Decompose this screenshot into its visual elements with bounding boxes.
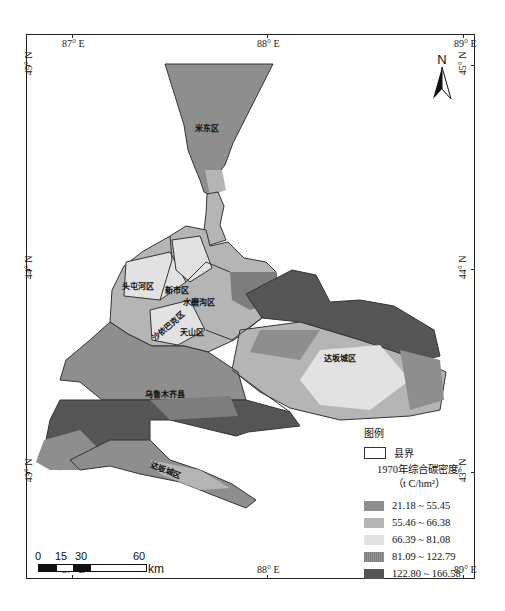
- district-label-tianshan: 天山区: [180, 326, 204, 337]
- north-label: N: [431, 52, 453, 67]
- legend-heading: 1970年综合碳密度/ （t C/hm²）: [364, 463, 474, 491]
- legend-label-1: 21.18 ~ 55.45: [392, 500, 450, 511]
- legend-swatch-4: [364, 552, 384, 562]
- scale-unit: km: [148, 562, 164, 576]
- legend-swatch-2: [364, 518, 384, 528]
- north-arrow: N: [431, 52, 453, 102]
- legend-label-2: 55.46 ~ 66.38: [392, 517, 450, 528]
- legend-heading-line2: （t C/hm²）: [364, 477, 474, 491]
- boundary-swatch: [364, 447, 386, 459]
- legend-label-4: 81.09 ~ 122.79: [392, 551, 455, 562]
- scale-bar-graphic: [38, 564, 147, 572]
- scale-tick-30: 30: [75, 550, 87, 562]
- legend-row-class-2: 55.46 ~ 66.38: [364, 514, 474, 531]
- scale-tick-60: 60: [133, 550, 145, 562]
- district-label-midong: 米东区: [195, 122, 219, 133]
- district-label-toutunhe: 头屯河区: [122, 280, 154, 291]
- scale-bar: 0 15 30 60 km: [38, 550, 147, 572]
- legend-label-boundary: 县界: [394, 445, 414, 460]
- scale-tick-15: 15: [55, 550, 67, 562]
- district-label-shuimogou: 水磨沟区: [183, 296, 215, 307]
- scale-ticks: 0 15 30 60: [38, 550, 147, 564]
- scale-tick-0: 0: [35, 550, 41, 562]
- legend-row-class-5: 122.80 ~ 166.58: [364, 565, 474, 582]
- legend-row-class-3: 66.39 ~ 81.08: [364, 531, 474, 548]
- legend-swatch-5: [364, 569, 384, 579]
- north-arrow-icon: [431, 67, 453, 101]
- map-legend: 图例 县界 1970年综合碳密度/ （t C/hm²） 21.18 ~ 55.4…: [364, 425, 474, 582]
- district-label-urumqi-county: 乌鲁木齐县: [145, 388, 185, 399]
- district-label-xinshi: 新市区: [165, 284, 189, 295]
- district-label-dabancheng: 达坂城区: [324, 352, 356, 363]
- legend-row-class-1: 21.18 ~ 55.45: [364, 497, 474, 514]
- legend-swatch-1: [364, 501, 384, 511]
- legend-row-class-4: 81.09 ~ 122.79: [364, 548, 474, 565]
- legend-row-boundary: 县界: [364, 444, 474, 461]
- legend-heading-line1: 1970年综合碳密度/: [364, 463, 474, 477]
- legend-title: 图例: [364, 425, 474, 440]
- legend-label-5: 122.80 ~ 166.58: [392, 568, 461, 579]
- legend-label-3: 66.39 ~ 81.08: [392, 534, 450, 545]
- legend-swatch-3: [364, 535, 384, 545]
